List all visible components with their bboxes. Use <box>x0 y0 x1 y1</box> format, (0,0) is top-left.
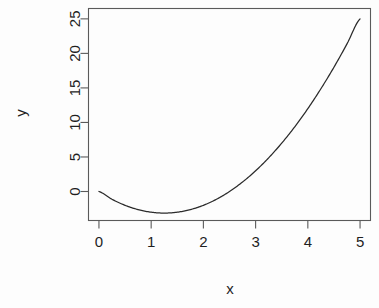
x-axis-title: x <box>226 280 234 297</box>
x-tick-label: 0 <box>95 233 103 250</box>
chart-background <box>0 0 379 308</box>
y-tick-label: 10 <box>66 114 83 131</box>
y-tick-label: 5 <box>66 153 83 161</box>
plot-canvas: 0510152025 012345 y x <box>0 0 379 308</box>
chart-svg: 0510152025 012345 y x <box>0 0 379 308</box>
x-tick-label: 5 <box>356 233 364 250</box>
x-tick-label: 2 <box>199 233 207 250</box>
y-tick-label: 20 <box>66 45 83 62</box>
x-tick-label: 1 <box>147 233 155 250</box>
x-tick-label: 4 <box>304 233 312 250</box>
y-tick-label: 25 <box>66 11 83 28</box>
y-tick-label: 15 <box>66 80 83 97</box>
y-axis-title: y <box>12 109 29 117</box>
y-tick-label: 0 <box>66 187 83 195</box>
x-tick-label: 3 <box>251 233 259 250</box>
